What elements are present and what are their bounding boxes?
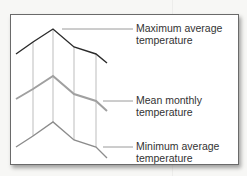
max-label-line2: temperature [136,34,222,46]
mean-temperature-label: Mean monthly temperature [136,94,202,118]
min-label-line1: Minimum average [136,140,219,152]
mean-label-line2: temperature [136,106,202,118]
min-label-line2: temperature [136,152,219,164]
max-temperature-label: Maximum average temperature [136,22,222,46]
min-temperature-line [16,122,107,158]
max-temperature-line [16,29,107,63]
min-temperature-label: Minimum average temperature [136,140,219,164]
mean-temperature-line [16,76,107,111]
max-label-line1: Maximum average [136,22,222,34]
mean-label-line1: Mean monthly [136,94,202,106]
